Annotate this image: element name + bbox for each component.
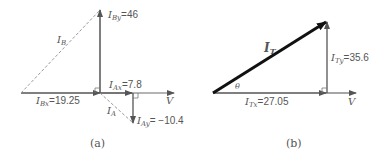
diagram-b: IT θ ITy=35.6 ITx=27.05 V (b) xyxy=(213,22,369,150)
theta-label: θ xyxy=(235,82,240,91)
caption-a: (a) xyxy=(90,137,105,150)
ib-label: IB xyxy=(56,34,66,47)
right-angle-marker xyxy=(133,93,138,98)
caption-b: (b) xyxy=(286,137,302,150)
ib-vector xyxy=(21,10,100,93)
v-label-b: V xyxy=(348,96,357,107)
iay-label: IAy= −10.4 xyxy=(136,115,184,128)
ia-label: IA xyxy=(106,105,116,118)
itx-label: ITx=27.05 xyxy=(244,96,289,109)
it-vector xyxy=(213,22,326,93)
v-label-a: V xyxy=(166,95,175,106)
ity-label: ITy=35.6 xyxy=(330,52,369,65)
it-label: IT xyxy=(263,41,277,56)
ibx-label: IBx=19.25 xyxy=(35,95,80,108)
right-angle-marker xyxy=(322,88,327,93)
phasor-diagrams: IBy=46 IB IAx=7.8 IBx=19.25 V IA IAy= −1… xyxy=(0,0,384,163)
diagram-a: IBy=46 IB IAx=7.8 IBx=19.25 V IA IAy= −1… xyxy=(21,9,184,150)
iax-label: IAx=7.8 xyxy=(108,79,142,92)
iby-label: IBy=46 xyxy=(107,9,138,22)
